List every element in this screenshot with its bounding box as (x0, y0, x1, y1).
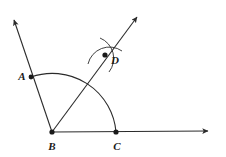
ray-bc (52, 131, 208, 132)
point-a-label: A (17, 70, 25, 82)
point-a-dot (29, 75, 34, 80)
point-b-label: B (47, 140, 55, 152)
geometry-canvas: A B C D (0, 0, 226, 157)
point-c-dot (113, 129, 118, 134)
point-d-dot (102, 52, 107, 57)
point-c-label: C (113, 140, 121, 152)
geometry-figure: A B C D (0, 0, 226, 157)
point-b-dot (49, 129, 54, 134)
point-d-label: D (110, 54, 119, 66)
